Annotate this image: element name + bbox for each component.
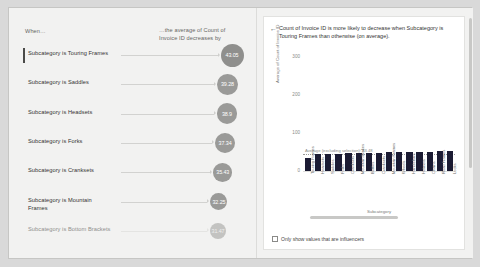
x-axis-tick-label: Cranksets — [350, 156, 355, 174]
horizontal-scrollbar[interactable] — [310, 216, 398, 219]
x-axis-tick-label: Helmets — [421, 159, 426, 174]
x-axis-tick-label: Road Frames — [441, 150, 446, 174]
y-axis-title: Average of Count of Invoice ID — [275, 25, 280, 83]
influencer-value-bubble[interactable]: 39.28 — [217, 74, 238, 95]
connector-arrow-icon — [207, 199, 209, 203]
influencers-only-checkbox[interactable]: Only show values that are influencers — [272, 236, 364, 242]
detail-title: Count of Invoice ID is more likely to de… — [279, 24, 457, 40]
x-axis-tick-label: Handlebars — [411, 154, 416, 174]
x-axis-tick-label: Saddles — [330, 160, 335, 174]
connector-line — [121, 172, 210, 173]
connector-line — [121, 55, 218, 56]
connector-line — [121, 231, 207, 232]
x-axis-tick-label: Mountain Frames — [391, 143, 396, 174]
key-influencers-visual: When… …the average of Count of Invoice I… — [8, 7, 472, 259]
influencer-value-bubble[interactable]: 32.25 — [210, 193, 227, 210]
y-axis-tick-label: 200 — [282, 92, 300, 97]
column-header-effect: …the average of Count of Invoice ID decr… — [159, 27, 245, 42]
pane-divider — [256, 8, 257, 258]
influencer-row[interactable]: Subcategory is Forks37.34 — [9, 137, 255, 167]
plot-area: Average (excluding selection): 43.48 — [303, 49, 455, 171]
y-axis-tick-label: 0 — [282, 168, 300, 173]
connector-line — [121, 114, 214, 115]
connector-line — [121, 143, 212, 144]
connector-arrow-icon — [210, 170, 212, 174]
connector-line — [121, 202, 207, 203]
influencer-value-bubble[interactable]: 31.47 — [210, 223, 227, 240]
influencer-label: Subcategory is Headsets — [28, 108, 112, 116]
detail-pane: ← Count of Invoice ID is more likely to … — [259, 8, 473, 258]
influencer-label: Subcategory is Cranksets — [28, 166, 112, 174]
connector-line — [121, 84, 214, 85]
checkbox-box[interactable] — [272, 236, 278, 242]
selected-indicator — [23, 48, 25, 63]
x-axis-tick-label: Headsets — [320, 157, 325, 174]
influencers-list-pane: When… …the average of Count of Invoice I… — [9, 8, 255, 258]
influencer-row[interactable]: Subcategory is Touring Frames43.05 — [9, 49, 255, 79]
connector-arrow-icon — [214, 82, 216, 86]
x-axis-tick-label: Touring Frames — [310, 146, 315, 174]
x-axis-tick-label: Chains — [431, 162, 436, 174]
average-bar-chart: Average of Count of Invoice ID 010020030… — [274, 45, 460, 220]
influencer-row[interactable]: Subcategory is Bottom Brackets31.47 — [9, 225, 255, 255]
influencer-label: Subcategory is Touring Frames — [28, 49, 112, 57]
x-axis-title: Subcategory — [303, 209, 455, 214]
influencer-label: Subcategory is Bottom Brackets — [28, 225, 112, 233]
column-header-when: When… — [25, 28, 46, 36]
x-axis-tick-label: Locks — [452, 164, 457, 174]
x-axis-tick-label: Cranksets — [381, 156, 386, 174]
influencer-row[interactable]: Subcategory is Headsets38.9 — [9, 108, 255, 138]
x-axis-tick-label: Wheels — [401, 161, 406, 174]
influencer-value-bubble[interactable]: 43.05 — [221, 44, 244, 67]
influencer-value-bubble[interactable]: 38.9 — [217, 103, 238, 124]
x-axis-tick-label: Bottles — [370, 162, 375, 174]
influencer-row[interactable]: Subcategory is Saddles39.28 — [9, 78, 255, 108]
checkbox-label: Only show values that are influencers — [281, 236, 364, 242]
influencer-label: Subcategory is Saddles — [28, 78, 112, 86]
y-axis-tick-label: 300 — [282, 54, 300, 59]
x-axis-tick-label: Forks — [340, 164, 345, 174]
y-axis-tick-label: 100 — [282, 130, 300, 135]
influencer-value-bubble[interactable]: 37.34 — [215, 133, 235, 153]
connector-arrow-icon — [212, 140, 214, 144]
influencer-label: Subcategory is Forks — [28, 137, 112, 145]
influencer-label: Subcategory is Mountain Frames — [28, 196, 112, 212]
influencer-row[interactable]: Subcategory is Mountain Frames32.25 — [9, 196, 255, 226]
connector-arrow-icon — [207, 228, 209, 232]
influencer-row[interactable]: Subcategory is Cranksets35.43 — [9, 166, 255, 196]
vertical-scrollbar[interactable] — [469, 18, 472, 168]
screenshot-root: When… …the average of Count of Invoice I… — [0, 0, 480, 267]
connector-arrow-icon — [218, 53, 220, 57]
detail-card: ← Count of Invoice ID is more likely to … — [263, 16, 465, 250]
connector-arrow-icon — [214, 111, 216, 115]
x-axis-tick-label: Mountain Brakes — [360, 144, 365, 174]
influencer-value-bubble[interactable]: 35.43 — [213, 163, 232, 182]
